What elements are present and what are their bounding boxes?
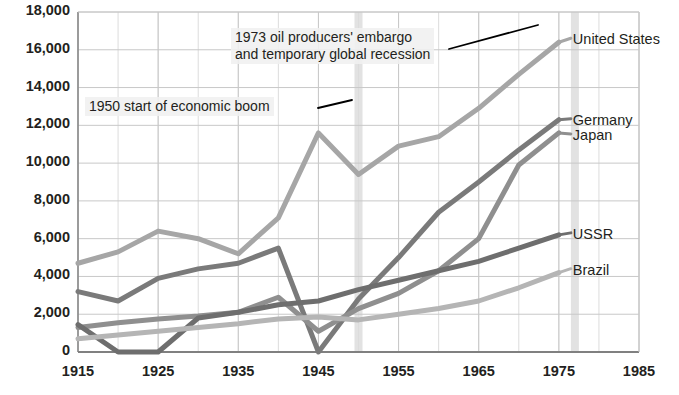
y-axis-tick-10000: 10,000 xyxy=(2,153,70,169)
chart-container: Gross domestic product (US$ billions) 02… xyxy=(0,0,679,395)
x-axis-tick-1945: 1945 xyxy=(288,363,348,379)
y-axis-tick-16000: 16,000 xyxy=(2,40,70,56)
y-axis-tick-0: 0 xyxy=(2,342,70,358)
x-axis-tick-1925: 1925 xyxy=(128,363,188,379)
y-axis-tick-12000: 12,000 xyxy=(2,115,70,131)
annotation-1950-boom: 1950 start of economic boom xyxy=(85,97,274,116)
y-axis-tick-18000: 18,000 xyxy=(2,2,70,18)
series-label-japan: Japan xyxy=(573,127,613,143)
x-axis-tick-1985: 1985 xyxy=(609,363,669,379)
series-label-brazil: Brazil xyxy=(573,262,609,278)
annotation-1950-line1: 1950 start of economic boom xyxy=(89,98,270,115)
series-label-united-states: United States xyxy=(573,31,660,47)
x-axis-tick-1955: 1955 xyxy=(369,363,429,379)
series-label-germany: Germany xyxy=(573,112,633,128)
x-axis-tick-1975: 1975 xyxy=(529,363,589,379)
annotation-1973-embargo: 1973 oil producers' embargo and temporar… xyxy=(231,28,434,64)
y-axis-tick-4000: 4,000 xyxy=(2,266,70,282)
data-series-lines xyxy=(78,38,571,352)
y-axis-tick-14000: 14,000 xyxy=(2,78,70,94)
y-axis-tick-6000: 6,000 xyxy=(2,229,70,245)
series-label-ussr: USSR xyxy=(573,226,613,242)
y-axis-tick-8000: 8,000 xyxy=(2,191,70,207)
y-axis-tick-2000: 2,000 xyxy=(2,304,70,320)
x-axis-tick-1935: 1935 xyxy=(208,363,268,379)
annotation-1973-line2: and temporary global recession xyxy=(235,46,430,63)
x-axis-tick-1915: 1915 xyxy=(48,363,108,379)
annotation-1973-line1: 1973 oil producers' embargo xyxy=(235,29,430,46)
x-axis-tick-1965: 1965 xyxy=(449,363,509,379)
